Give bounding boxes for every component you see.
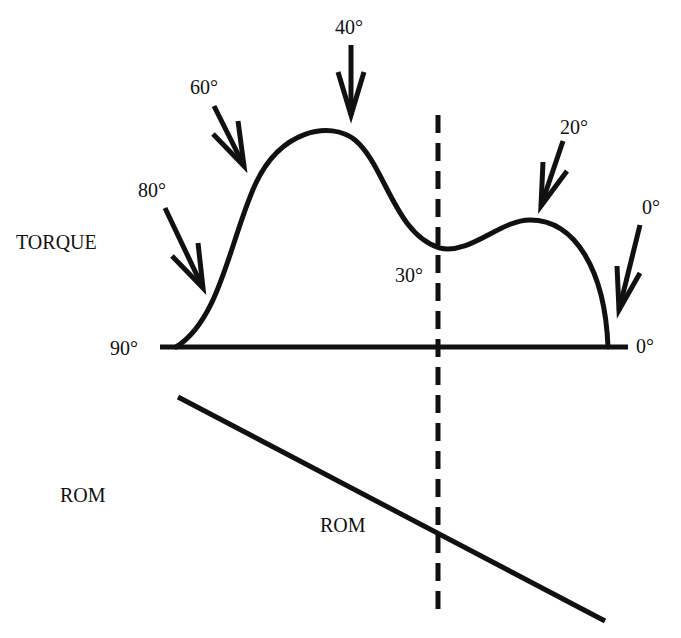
arrow-20-icon xyxy=(541,141,567,206)
torque-rom-diagram xyxy=(0,0,681,638)
angle-label-60: 60° xyxy=(190,77,218,97)
angle-label-20: 20° xyxy=(560,117,588,137)
axis-right-label-0: 0° xyxy=(636,336,654,356)
arrow-0-icon xyxy=(617,225,640,310)
arrow-80-icon xyxy=(165,208,203,288)
arrow-60-icon xyxy=(213,106,244,166)
axis-left-label-90: 90° xyxy=(110,338,138,358)
angle-label-30: 30° xyxy=(395,265,423,285)
angle-label-80: 80° xyxy=(138,180,166,200)
torque-axis-label: TORQUE xyxy=(16,232,97,252)
angle-label-0: 0° xyxy=(642,197,660,217)
rom-axis-label: ROM xyxy=(60,485,106,505)
angle-label-40: 40° xyxy=(335,17,363,37)
arrow-40-icon xyxy=(338,45,364,115)
rom-line xyxy=(178,397,605,621)
rom-line-label: ROM xyxy=(320,515,366,535)
